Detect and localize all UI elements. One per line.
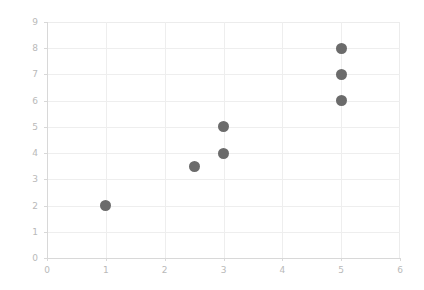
data-point [336,69,347,80]
x-tick-mark [224,258,225,261]
y-tick-mark [44,74,47,75]
y-tick-label: 5 [10,121,38,133]
y-tick-mark [44,232,47,233]
x-tick-mark [106,258,107,261]
gridline-vertical [165,22,166,258]
x-tick-mark [165,258,166,261]
y-tick-label: 0 [10,252,38,264]
gridline-vertical [341,22,342,258]
x-tick-label: 4 [267,264,297,276]
x-tick-label: 6 [385,264,415,276]
y-tick-mark [44,101,47,102]
y-tick-mark [44,22,47,23]
scatter-chart-figure: 0123456 0123456789 [0,0,424,290]
y-tick-mark [44,179,47,180]
x-tick-label: 5 [326,264,356,276]
y-tick-mark [44,127,47,128]
y-tick-label: 2 [10,200,38,212]
x-tick-label: 1 [91,264,121,276]
x-tick-label: 2 [150,264,180,276]
y-tick-mark [44,153,47,154]
y-tick-label: 3 [10,173,38,185]
y-tick-label: 9 [10,16,38,28]
y-tick-label: 6 [10,95,38,107]
y-tick-mark [44,48,47,49]
x-tick-mark [47,258,48,261]
data-point [336,43,347,54]
y-tick-label: 8 [10,42,38,54]
data-point [218,148,229,159]
y-tick-label: 1 [10,226,38,238]
data-point [336,95,347,106]
y-tick-mark [44,258,47,259]
y-axis-line [47,22,48,259]
x-tick-label: 3 [209,264,239,276]
vertical-gridlines [47,22,400,258]
y-tick-label: 7 [10,68,38,80]
x-tick-mark [400,258,401,261]
x-tick-label: 0 [32,264,62,276]
data-point [189,161,200,172]
y-tick-label: 4 [10,147,38,159]
gridline-vertical [224,22,225,258]
y-tick-mark [44,206,47,207]
x-tick-mark [341,258,342,261]
x-tick-mark [282,258,283,261]
gridline-vertical [106,22,107,258]
gridline-vertical [282,22,283,258]
